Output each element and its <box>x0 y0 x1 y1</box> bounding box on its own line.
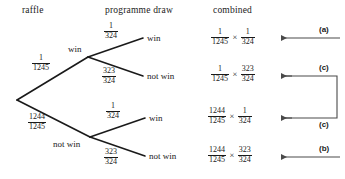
combined-4-first-denominator: 1245 <box>208 156 226 165</box>
prob-raffle-not-win-denominator: 1245 <box>28 123 46 132</box>
leaf-label-not-win-win: win <box>149 113 163 123</box>
branch-win-to-win <box>88 38 143 57</box>
prob-draw-not-win-upper-denominator: 324 <box>102 77 116 86</box>
combined-expression-row-1: 1 1245 × 1 324 <box>211 28 255 46</box>
combined-expression-row-2: 1 1245 × 323 324 <box>211 65 255 83</box>
prob-raffle-win: 1 1245 <box>32 53 50 72</box>
branch-not-win-to-win <box>90 118 145 137</box>
combined-1-operator: × <box>232 33 238 42</box>
combined-expression-row-4: 1244 1245 × 323 324 <box>208 146 252 164</box>
probability-tree-diagram: raffle programme draw combined 1 1245 12… <box>0 0 345 179</box>
prob-raffle-win-denominator: 1245 <box>32 64 50 73</box>
annotation-label-c-lower: (c) <box>319 120 329 129</box>
leaf-label-win-not-win: not win <box>147 71 174 81</box>
combined-1-second-denominator: 324 <box>241 38 255 47</box>
prob-draw-not-win-upper: 323 324 <box>102 66 116 85</box>
header-combined: combined <box>213 5 252 15</box>
prob-raffle-not-win: 1244 1245 <box>28 112 46 131</box>
prob-draw-not-win-lower: 323 324 <box>104 147 118 166</box>
combined-3-operator: × <box>229 112 235 121</box>
node-label-raffle-not-win: not win <box>53 139 80 149</box>
annotation-label-a: (a) <box>319 25 329 34</box>
combined-1-first-denominator: 1245 <box>211 38 229 47</box>
combined-2-first-denominator: 1245 <box>211 75 229 84</box>
combined-4-second-denominator: 324 <box>238 156 252 165</box>
combined-2-operator: × <box>232 70 238 79</box>
header-programme-draw: programme draw <box>105 5 173 15</box>
combined-3-second-denominator: 324 <box>238 117 252 126</box>
branch-root-to-win <box>17 57 88 100</box>
combined-4-operator: × <box>229 151 235 160</box>
combined-expression-row-3: 1244 1245 × 1 324 <box>208 107 252 125</box>
header-raffle: raffle <box>22 5 44 15</box>
prob-draw-win-lower: 1 324 <box>106 101 120 120</box>
leaf-label-not-win-not-win: not win <box>149 151 176 161</box>
arrow-annotation-c-bracket <box>281 76 337 118</box>
node-label-raffle-win: win <box>68 44 82 54</box>
combined-2-second-denominator: 324 <box>241 75 255 84</box>
combined-3-first-denominator: 1245 <box>208 117 226 126</box>
prob-draw-win-lower-denominator: 324 <box>106 112 120 121</box>
prob-draw-not-win-lower-denominator: 324 <box>104 158 118 167</box>
leaf-label-win-win: win <box>147 33 161 43</box>
prob-draw-win-upper: 1 324 <box>104 21 118 40</box>
annotation-label-b: (b) <box>319 144 329 153</box>
annotation-label-c-upper: (c) <box>319 63 329 72</box>
prob-draw-win-upper-denominator: 324 <box>104 32 118 41</box>
